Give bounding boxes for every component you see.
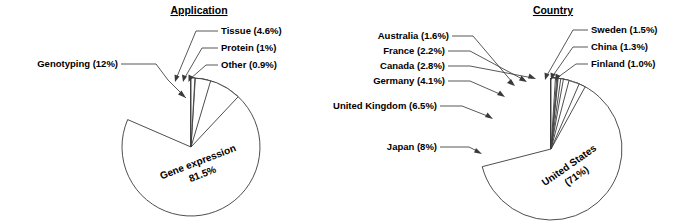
application-pie-slices: [122, 78, 260, 216]
application-chart: Application Genotyping (12%) Tissue (4.6…: [37, 4, 281, 216]
genotyping-label: Genotyping (12%): [37, 58, 118, 69]
tissue-leader-line: [176, 31, 218, 79]
country-chart-title: Country: [533, 4, 573, 16]
sweden-arrow-icon: [545, 73, 550, 81]
united-kingdom-leader-line: [440, 106, 490, 117]
callout-finland: Finland (1.0%): [556, 58, 656, 81]
canada-label: Canada (2.8%): [380, 60, 445, 71]
other-label: Other (0.9%): [221, 59, 277, 70]
pie-charts-figure: Application Genotyping (12%) Tissue (4.6…: [0, 0, 675, 221]
united-kingdom-label: United Kingdom (6.5%): [333, 100, 437, 111]
japan-label: Japan (8%): [387, 141, 437, 152]
canada-leader-line: [448, 66, 533, 78]
charts-canvas: Application Genotyping (12%) Tissue (4.6…: [0, 0, 675, 221]
callout-germany: Germany (4.1%): [373, 75, 505, 97]
callout-japan: Japan (8%): [387, 141, 482, 154]
callout-genotyping: Genotyping (12%): [37, 58, 186, 98]
country-pie-slices: [482, 78, 622, 220]
united-kingdom-arrow-icon: [485, 113, 493, 120]
france-leader-line: [448, 51, 524, 80]
germany-label: Germany (4.1%): [373, 75, 445, 86]
sweden-leader-line: [546, 30, 588, 77]
finland-label: Finland (1.0%): [591, 58, 655, 69]
australia-leader-line: [452, 36, 513, 83]
protein-leader-line: [184, 48, 218, 79]
callout-tissue: Tissue (4.6%): [175, 25, 282, 82]
tissue-label: Tissue (4.6%): [221, 25, 282, 36]
germany-arrow-icon: [497, 91, 505, 98]
sweden-label: Sweden (1.5%): [591, 24, 658, 35]
china-leader-line: [552, 47, 588, 77]
callout-united-kingdom: United Kingdom (6.5%): [333, 100, 493, 119]
china-label: China (1.3%): [591, 41, 648, 52]
canada-arrow-icon: [528, 74, 536, 80]
tissue-arrow-icon: [175, 75, 180, 83]
australia-label: Australia (1.6%): [378, 30, 449, 41]
genotyping-leader-line: [121, 64, 186, 98]
france-label: France (2.2%): [383, 45, 445, 56]
finland-leader-line: [557, 64, 588, 78]
country-chart: Country Australia (1.6%) France (2.2%) C…: [333, 4, 658, 220]
japan-arrow-icon: [474, 148, 482, 154]
other-leader-line: [190, 65, 218, 79]
application-chart-title: Application: [170, 4, 227, 16]
callout-sweden: Sweden (1.5%): [545, 24, 658, 80]
australia-arrow-icon: [507, 79, 515, 86]
japan-leader-line: [440, 147, 479, 152]
protein-label: Protein (1%): [221, 42, 276, 53]
germany-leader-line: [448, 81, 502, 95]
